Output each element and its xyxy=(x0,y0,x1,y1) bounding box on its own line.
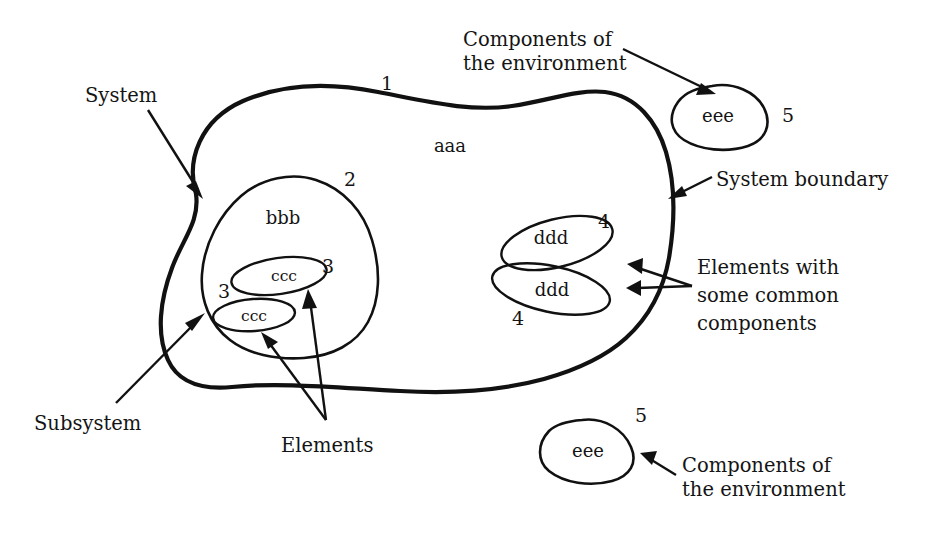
shape-number-2: 2 xyxy=(344,168,356,190)
system-boundary-diagram: System Subsystem Elements System boundar… xyxy=(0,0,932,543)
label-system-boundary: System boundary xyxy=(716,168,888,191)
shape-label-bbb: bbb xyxy=(266,207,301,228)
shape-number-4-upper: 4 xyxy=(598,210,610,232)
shape-label-eee-top: eee xyxy=(702,105,734,126)
label-components-env-top-line1: Components of xyxy=(463,28,614,51)
common-elements-leader-upper xyxy=(627,258,692,286)
label-common-line2: some common xyxy=(697,284,839,307)
label-subsystem: Subsystem xyxy=(34,412,141,435)
shape-number-1: 1 xyxy=(381,72,393,94)
label-components-env-bottom-line2: the environment xyxy=(682,478,846,501)
shape-number-5-top: 5 xyxy=(782,104,794,126)
diagram-canvas: System Subsystem Elements System boundar… xyxy=(0,0,932,543)
shape-number-5-bottom: 5 xyxy=(635,404,647,426)
shape-number-3-lower: 3 xyxy=(218,280,230,302)
shape-label-ddd-upper: ddd xyxy=(534,227,569,248)
shape-number-4-lower: 4 xyxy=(512,307,524,329)
label-components-env-top-line2: the environment xyxy=(463,52,627,75)
label-common-line1: Elements with xyxy=(697,256,839,279)
shape-number-3-upper: 3 xyxy=(322,255,334,277)
shape-label-aaa: aaa xyxy=(434,135,466,156)
components-env-top-leader xyxy=(623,49,716,95)
shape-label-ccc-lower: ccc xyxy=(241,307,267,325)
label-system: System xyxy=(85,84,157,107)
label-common-line3: components xyxy=(697,312,817,335)
label-components-env-bottom-line1: Components of xyxy=(682,454,833,477)
shape-label-ddd-lower: ddd xyxy=(535,279,570,300)
shape-label-ccc-upper: ccc xyxy=(271,267,297,285)
components-env-bottom-leader xyxy=(640,451,676,475)
label-elements: Elements xyxy=(281,434,373,457)
shape-label-eee-bottom: eee xyxy=(572,440,604,461)
